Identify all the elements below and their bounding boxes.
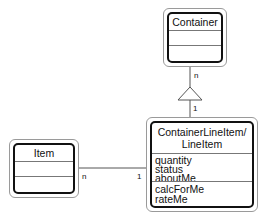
container-class-box: Container (167, 12, 223, 63)
item-multiplicity: n (82, 172, 86, 181)
item-class-name: Item (15, 147, 73, 159)
container-line-item-operations-section: calcForMe rateMe (152, 181, 252, 206)
container-class[interactable]: Container (163, 8, 227, 67)
lineitem-top-multiplicity: 1 (193, 104, 197, 113)
container-class-name: Container (169, 16, 221, 28)
container-line-item-class[interactable]: ContainerLineItem/ LineItem quantity sta… (146, 117, 258, 212)
lineitem-left-multiplicity: 1 (137, 172, 141, 181)
container-line-item-name-line1: ContainerLineItem/ (152, 126, 252, 138)
item-class-box: Item (13, 143, 75, 194)
container-line-item-name-line2: LineItem (152, 138, 252, 150)
triangle-icon (178, 87, 202, 100)
container-operations-section (169, 45, 221, 61)
item-attributes-section (15, 161, 73, 176)
container-line-item-class-box: ContainerLineItem/ LineItem quantity sta… (150, 121, 254, 208)
container-line-item-attributes-section: quantity status aboutMe (152, 153, 252, 181)
container-multiplicity: n (194, 71, 198, 80)
item-class[interactable]: Item (9, 139, 79, 198)
container-attributes-section (169, 30, 221, 45)
operation-rateme: rateMe (155, 194, 188, 205)
item-operations-section (15, 176, 73, 192)
